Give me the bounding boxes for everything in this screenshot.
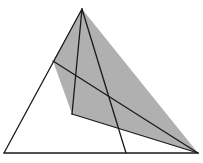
geometry-figure — [0, 0, 203, 163]
